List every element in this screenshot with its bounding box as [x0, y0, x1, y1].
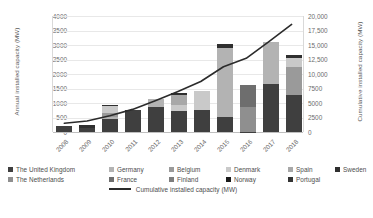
legend-item[interactable]: The United Kingdom — [8, 166, 109, 173]
legend-item[interactable]: Finland — [169, 176, 226, 183]
y-axis-left-title: Annual installed capacity (MW) — [13, 17, 20, 127]
legend-item[interactable]: Norway — [226, 176, 288, 183]
legend-item[interactable]: Denmark — [226, 166, 288, 173]
cumulative-line-layer — [53, 16, 303, 132]
legend-item[interactable]: Portugal — [288, 176, 335, 183]
legend-item-label: The United Kingdom — [16, 166, 75, 173]
legend-item-label: Belgium — [177, 166, 200, 173]
legend-item-label: The Netherlands — [16, 176, 64, 183]
y-tick-right: 12,500 — [308, 56, 348, 63]
y-tick-right: 15,000 — [308, 42, 348, 49]
legend-item[interactable]: Belgium — [169, 166, 226, 173]
legend-item[interactable]: The Netherlands — [8, 176, 109, 183]
legend-item[interactable]: Spain — [288, 166, 335, 173]
y-tick-right: 17,500 — [308, 27, 348, 34]
legend-swatch-icon — [226, 177, 231, 182]
chart-container: Annual installed capacity (MW) Cumulativ… — [0, 0, 373, 218]
legend-swatch-icon — [109, 177, 114, 182]
legend-item-label: Norway — [234, 176, 256, 183]
chart-legend: The United KingdomGermanyBelgiumDenmarkS… — [8, 166, 368, 193]
y-tick-right: 0 — [308, 129, 348, 136]
gridline — [53, 132, 303, 133]
y-tick-right: 10,000 — [308, 71, 348, 78]
legend-swatch-icon — [109, 167, 114, 172]
legend-item-label: Sweden — [343, 166, 366, 173]
legend-swatch-icon — [8, 167, 13, 172]
y-axis-right-title: Cumulative installed capacity (MW) — [356, 17, 363, 127]
y-tick-right: 20,000 — [308, 13, 348, 20]
legend-swatch-icon — [288, 177, 293, 182]
legend-swatch-icon — [288, 167, 293, 172]
legend-item-label: Portugal — [296, 176, 320, 183]
y-tick-right: 5000 — [308, 100, 348, 107]
legend-item-label: Denmark — [234, 166, 260, 173]
line-swatch-icon — [109, 188, 131, 190]
legend-item[interactable]: Sweden — [335, 166, 366, 173]
legend-row-2: The NetherlandsFranceFinlandNorwayPortug… — [8, 176, 368, 183]
legend-swatch-icon — [226, 167, 231, 172]
y-tick-right: 7500 — [308, 85, 348, 92]
legend-item-label: Germany — [117, 166, 144, 173]
legend-swatch-icon — [169, 167, 174, 172]
legend-swatch-icon — [169, 177, 174, 182]
legend-item-label: Spain — [296, 166, 313, 173]
legend-line-entry: Cumulative installed capacity (MW) — [8, 186, 338, 193]
legend-swatch-icon — [8, 177, 13, 182]
legend-item[interactable]: Germany — [109, 166, 169, 173]
legend-swatch-icon — [335, 167, 340, 172]
legend-item-label: Finland — [177, 176, 198, 183]
plot-area — [52, 16, 304, 132]
y-tick-right: 2500 — [308, 114, 348, 121]
legend-item-label: France — [117, 176, 137, 183]
legend-row-1: The United KingdomGermanyBelgiumDenmarkS… — [8, 166, 368, 173]
legend-item[interactable]: France — [109, 176, 169, 183]
legend-line-label: Cumulative installed capacity (MW) — [136, 186, 238, 193]
cumulative-line — [64, 24, 291, 123]
